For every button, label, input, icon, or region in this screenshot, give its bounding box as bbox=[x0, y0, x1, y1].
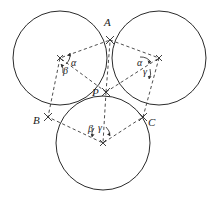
geometry-figure: A B C P α β α γ β γ bbox=[0, 0, 220, 203]
vertex-marker-c bbox=[139, 113, 147, 121]
point-label-b: B bbox=[33, 115, 40, 126]
point-label-a: A bbox=[104, 17, 111, 28]
vertex-marker-b bbox=[44, 113, 52, 121]
angle-label-gamma-right: γ bbox=[143, 67, 147, 77]
angle-label-beta-left: β bbox=[63, 66, 68, 76]
angle-label-gamma-bottom: γ bbox=[98, 123, 102, 133]
angle-arc-gamma-bottom bbox=[106, 127, 110, 136]
angle-arc-gamma-right bbox=[148, 69, 152, 79]
angle-label-beta-bottom: β bbox=[88, 124, 93, 134]
angle-label-alpha-right: α bbox=[137, 58, 142, 68]
dashed-spoke-p-to-bottom-center bbox=[103, 92, 106, 143]
center-marker-upper-right bbox=[156, 55, 162, 61]
angle-label-alpha-left: α bbox=[71, 58, 76, 68]
point-label-c: C bbox=[148, 117, 155, 128]
figure-canvas bbox=[0, 0, 220, 203]
point-label-p: P bbox=[92, 87, 99, 98]
